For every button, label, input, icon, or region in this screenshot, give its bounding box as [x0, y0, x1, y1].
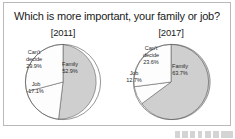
pie-label-family-2017: Family 63.7% — [163, 63, 197, 77]
panel-label-2017: [2017] — [117, 27, 225, 38]
pie-label-job-name-2011: Job — [23, 81, 49, 88]
pie-label-job-name-2017: Job — [122, 70, 146, 77]
panel-label-2011: [2011] — [9, 27, 117, 38]
pie-panel-2017: [2017] Family 63.7% Job 12.7% Can't deci… — [117, 27, 225, 125]
pie-label-family-2011: Family 52.9% — [53, 61, 87, 75]
pie-label-family-value-2011: 52.9% — [53, 68, 87, 75]
pie-label-job-2011: Job 17.1% — [23, 81, 49, 95]
figure-frame: Which is more important, your family or … — [3, 2, 231, 126]
pie-label-cant-decide-value-2011: 29.9% — [17, 63, 51, 70]
pie-label-cant-decide-line2-2017: decide — [134, 52, 168, 59]
pie-label-cant-decide-line1-2011: Can't — [17, 49, 51, 56]
page-title: Which is more important, your family or … — [4, 10, 230, 22]
pie-label-cant-decide-line1-2017: Can't — [134, 45, 168, 52]
pie-label-family-value-2017: 63.7% — [163, 70, 197, 77]
pie-label-cant-decide-2017: Can't decide 23.6% — [134, 45, 168, 65]
pie-panel-2011: [2011] Family 52.9% Job 17.1% Can't deci… — [9, 27, 117, 125]
source-caption-smudge — [175, 131, 233, 138]
pie-label-family-name-2017: Family — [163, 63, 197, 70]
pie-label-cant-decide-2011: Can't decide 29.9% — [17, 49, 51, 69]
pie-label-family-name-2011: Family — [53, 61, 87, 68]
pie-label-cant-decide-value-2017: 23.6% — [134, 59, 168, 66]
pie-label-job-value-2017: 12.7% — [122, 77, 146, 84]
pie-label-job-2017: Job 12.7% — [122, 70, 146, 84]
pie-label-cant-decide-line2-2011: decide — [17, 56, 51, 63]
pie-label-job-value-2011: 17.1% — [23, 88, 49, 95]
